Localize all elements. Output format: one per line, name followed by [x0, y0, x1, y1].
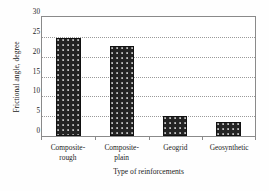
x-axis-category-labels: Composite- rough Composite- plain Geogri… [41, 143, 256, 162]
bar-series [42, 17, 255, 136]
x-tick [95, 137, 96, 140]
x-axis-ticks [41, 137, 256, 141]
x-tick [255, 137, 256, 140]
x-category-label: Composite- rough [41, 143, 95, 162]
x-axis-title: Type of reinforcements [41, 167, 256, 177]
x-tick [41, 137, 42, 140]
x-category-line1: Composite- [104, 143, 139, 152]
x-category-label: Composite- plain [95, 143, 149, 162]
x-category-line1: Composite- [51, 143, 86, 152]
y-tick-label: 5 [18, 107, 40, 115]
x-category-line1: Geogrid [163, 143, 187, 152]
bar-geosynthetic [216, 122, 240, 136]
y-tick-label: 0 [18, 127, 40, 135]
bar-geogrid [163, 116, 187, 135]
x-category-line2: plain [95, 153, 149, 163]
x-category-label: Geosynthetic [202, 143, 256, 162]
bar-slot [42, 17, 95, 136]
x-tick [202, 137, 203, 140]
y-tick-label: 15 [18, 68, 40, 76]
y-tick-label: 30 [18, 8, 40, 16]
x-category-label: Geogrid [149, 143, 203, 162]
bar-composite-rough [56, 38, 80, 136]
bar-composite-plain [110, 46, 134, 136]
bar-slot [95, 17, 148, 136]
x-tick [149, 137, 150, 140]
y-tick-label: 25 [18, 28, 40, 36]
x-category-line2: rough [41, 153, 95, 163]
x-category-line1: Geosynthetic [210, 143, 249, 152]
bar-slot [202, 17, 255, 136]
bar-slot [149, 17, 202, 136]
y-tick-label: 20 [18, 48, 40, 56]
y-axis-tick-labels: 30 25 20 15 10 5 0 [18, 12, 40, 137]
y-tick-label: 10 [18, 87, 40, 95]
plot-area [41, 16, 256, 137]
bar-chart-figure: Frictional angle, degree 30 25 20 15 10 … [0, 0, 269, 191]
